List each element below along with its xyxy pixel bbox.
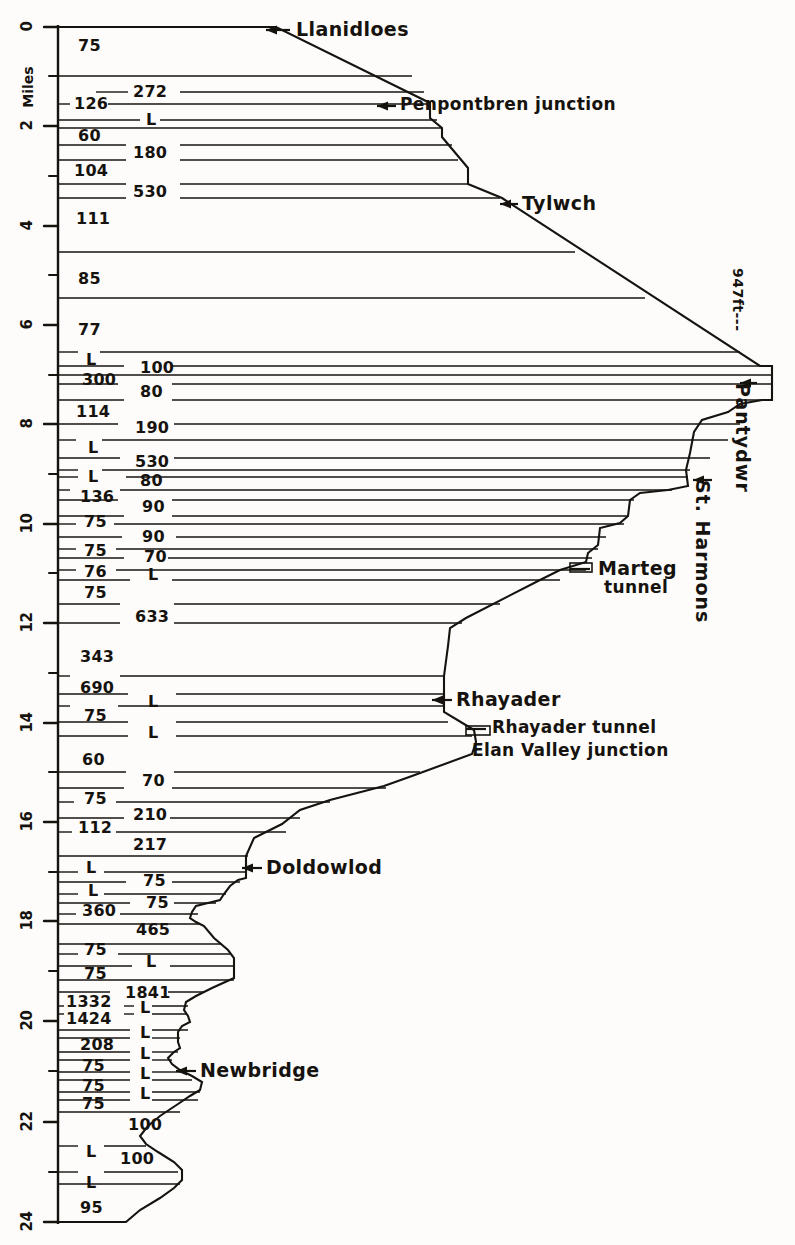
axis-title-miles: Miles [21,65,35,109]
gradient-value-label: 100 [140,360,174,376]
arrowhead-penpontbren-junction [377,102,388,111]
gradient-value-label: 126 [74,96,108,112]
station-label-doldowlod: Doldowlod [266,858,382,877]
axis-mile-label: 22 [20,1109,35,1135]
gradient-value-label: 80 [140,384,163,400]
gradient-value-label: 530 [133,184,167,200]
gradient-level-label: L [140,1066,151,1082]
axis-mile-label: 0 [20,14,35,40]
station-label-pantydwr: Pantydwr [733,383,752,493]
gradient-value-label: 90 [142,499,165,515]
axis-mile-label: 8 [20,411,35,437]
station-label-st-harmons: St. Harmons [693,480,712,623]
station-label-newbridge: Newbridge [200,1061,320,1080]
axis-mile-label: 10 [20,511,35,537]
axis-mile-label: 2 [20,113,35,139]
gradient-value-label: 75 [146,895,169,911]
station-label-rhayader: Rhayader [456,690,561,709]
gradient-value-label: 60 [82,752,105,768]
station-label-rhayader-tunnel: Rhayader tunnel [492,719,657,736]
axis-mile-label: 4 [20,213,35,239]
gradient-value-label: 70 [144,549,167,565]
gradient-value-label: 75 [84,543,107,559]
gradient-value-label: 465 [136,922,170,938]
gradient-level-label: L [146,954,157,970]
gradient-value-label: 75 [84,791,107,807]
gradient-level-label: L [88,883,99,899]
gradient-level-label: L [140,1086,151,1102]
axis-mile-label: 20 [20,1008,35,1034]
gradient-value-label: 75 [84,708,107,724]
gradient-value-label: 104 [74,163,108,179]
gradient-level-label: L [86,1175,97,1191]
gradient-value-label: 75 [78,38,101,54]
gradient-value-label: 95 [80,1200,103,1216]
gradient-value-label: 360 [82,903,116,919]
station-label-marteg: Marteg [598,559,677,578]
gradient-value-label: 190 [135,420,169,436]
gradient-value-label: 180 [133,145,167,161]
gradient-value-label: 300 [82,372,116,388]
axis-mile-label: 6 [20,312,35,338]
station-label-elan-valley-junction: Elan Valley junction [472,742,669,759]
gradient-value-label: 75 [82,1058,105,1074]
gradient-level-label: L [146,112,157,128]
gradient-value-label: 690 [80,680,114,696]
axis-mile-label: 14 [20,710,35,736]
axis-mile-label: 12 [20,610,35,636]
gradient-value-label: 530 [135,454,169,470]
gradient-value-label: 75 [84,585,107,601]
gradient-value-label: 75 [84,514,107,530]
axis-mile-label: 18 [20,908,35,934]
gradient-value-label: 217 [133,837,167,853]
station-pointer-arrows [176,26,757,1076]
gradient-level-label: L [148,567,159,583]
gradient-value-label: 70 [142,773,165,789]
gradient-value-label: 633 [135,609,169,625]
gradient-value-label: 90 [142,529,165,545]
gradient-level-label: L [88,440,99,456]
station-label-penpontbren-junction: Penpontbren junction [400,96,616,113]
profile-drawing [0,0,795,1245]
arrowhead-doldowlod [242,864,253,873]
gradient-level-label: L [148,694,159,710]
gradient-hatch-lines [58,76,772,1184]
gradient-value-label: 85 [78,271,101,287]
summit-altitude-label: 947ft--- [731,268,745,331]
gradient-value-label: 77 [78,322,101,338]
gradient-level-label: L [140,1025,151,1041]
gradient-value-label: 136 [80,489,114,505]
gradient-value-label: 208 [80,1037,114,1053]
station-label-tunnel: tunnel [604,579,668,596]
gradient-profile-figure: 024681012141618202224Miles7512627260L180… [0,0,795,1245]
gradient-level-label: L [86,860,97,876]
gradient-value-label: 75 [84,966,107,982]
station-label-tylwch: Tylwch [522,194,596,213]
gradient-value-label: 343 [80,649,114,665]
gradient-level-label: L [140,1000,151,1016]
gradient-value-label: 75 [82,1078,105,1094]
gradient-value-label: 112 [78,820,112,836]
gradient-level-label: L [88,469,99,485]
gradient-value-label: 75 [84,942,107,958]
station-label-llanidloes: Llanidloes [296,20,409,39]
gradient-level-label: L [86,1144,97,1160]
gradient-value-label: 100 [128,1117,162,1133]
gradient-value-label: 100 [120,1151,154,1167]
axis-mile-label: 24 [20,1209,35,1235]
arrowhead-rhayader [432,696,443,705]
gradient-value-label: 80 [140,473,163,489]
axis-mile-label: 16 [20,809,35,835]
gradient-value-label: 76 [84,564,107,580]
gradient-value-label: 1424 [66,1011,112,1027]
gradient-value-label: 75 [82,1096,105,1112]
gradient-value-label: 60 [78,128,101,144]
gradient-level-label: L [86,352,97,368]
gradient-value-label: 75 [143,873,166,889]
gradient-level-label: L [148,725,159,741]
gradient-value-label: 114 [76,404,110,420]
gradient-level-label: L [140,1046,151,1062]
gradient-value-label: 1332 [66,994,112,1010]
gradient-value-label: 272 [133,84,167,100]
axis-ticks [44,27,58,1222]
